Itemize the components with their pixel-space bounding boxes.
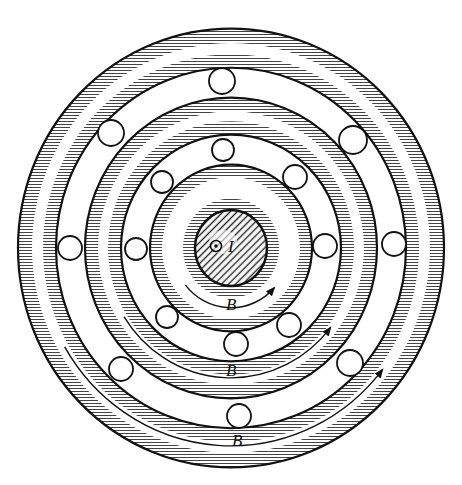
ball-3 [58, 236, 82, 260]
coaxial-field-diagram: I B B B [0, 0, 462, 485]
field-label-middle: B [226, 361, 237, 380]
ball-4 [382, 232, 406, 256]
diagram-canvas: I B B B [0, 0, 462, 485]
ball-0 [209, 68, 235, 94]
ball-8 [212, 139, 234, 161]
field-label-outer: B [232, 431, 243, 450]
current-direction-dot [214, 244, 218, 248]
ball-13 [156, 306, 178, 328]
ball-9 [151, 171, 173, 193]
ball-11 [125, 238, 147, 260]
ball-2 [339, 126, 367, 154]
ball-14 [277, 313, 301, 337]
ball-15 [224, 332, 248, 356]
ball-5 [109, 357, 133, 381]
ball-6 [337, 350, 363, 376]
field-label-inner: B [226, 295, 237, 314]
ball-10 [283, 165, 307, 189]
ball-7 [227, 404, 251, 428]
ball-1 [98, 120, 124, 146]
ball-12 [313, 234, 337, 258]
